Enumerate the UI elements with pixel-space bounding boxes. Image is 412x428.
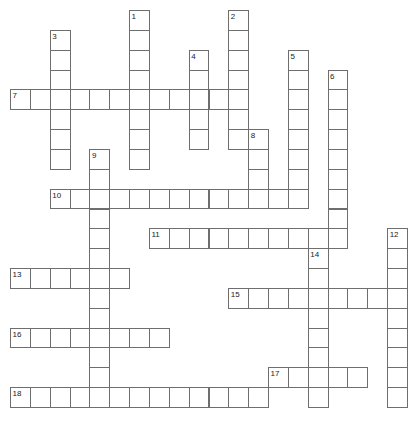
grid-cell[interactable] (30, 328, 51, 349)
grid-cell[interactable] (89, 347, 110, 368)
grid-cell[interactable] (328, 149, 349, 170)
grid-cell[interactable] (288, 70, 309, 91)
grid-cell[interactable] (30, 268, 51, 289)
grid-cell[interactable] (288, 129, 309, 150)
grid-cell[interactable] (328, 109, 349, 130)
grid-cell[interactable] (129, 387, 150, 408)
grid-cell[interactable] (89, 209, 110, 230)
grid-cell[interactable] (308, 387, 329, 408)
grid-cell[interactable] (50, 50, 71, 71)
grid-cell[interactable] (209, 228, 230, 249)
grid-cell[interactable] (129, 328, 150, 349)
grid-cell[interactable] (308, 308, 329, 329)
grid-cell[interactable] (169, 228, 190, 249)
grid-cell[interactable] (308, 248, 329, 269)
grid-cell[interactable] (228, 89, 249, 110)
grid-cell[interactable] (228, 10, 249, 31)
grid-cell[interactable] (228, 30, 249, 51)
grid-cell[interactable] (30, 387, 51, 408)
grid-cell[interactable] (248, 129, 269, 150)
grid-cell[interactable] (129, 129, 150, 150)
grid-cell[interactable] (367, 288, 388, 309)
grid-cell[interactable] (129, 89, 150, 110)
grid-cell[interactable] (89, 288, 110, 309)
grid-cell[interactable] (129, 30, 150, 51)
grid-cell[interactable] (189, 228, 210, 249)
grid-cell[interactable] (228, 129, 249, 150)
grid-cell[interactable] (189, 129, 210, 150)
grid-cell[interactable] (248, 387, 269, 408)
grid-cell[interactable] (149, 328, 170, 349)
grid-cell[interactable] (50, 109, 71, 130)
grid-cell[interactable] (50, 387, 71, 408)
grid-cell[interactable] (189, 50, 210, 71)
grid-cell[interactable] (387, 347, 408, 368)
grid-cell[interactable] (288, 189, 309, 210)
grid-cell[interactable] (109, 89, 130, 110)
grid-cell[interactable] (209, 89, 230, 110)
grid-cell[interactable] (328, 129, 349, 150)
grid-cell[interactable] (189, 109, 210, 130)
grid-cell[interactable] (50, 70, 71, 91)
grid-cell[interactable] (209, 387, 230, 408)
grid-cell[interactable] (268, 288, 289, 309)
grid-cell[interactable] (347, 367, 368, 388)
grid-cell[interactable] (70, 268, 91, 289)
grid-cell[interactable] (109, 328, 130, 349)
grid-cell[interactable] (268, 189, 289, 210)
grid-cell[interactable] (70, 189, 91, 210)
grid-cell[interactable] (328, 367, 349, 388)
grid-cell[interactable] (89, 228, 110, 249)
grid-cell[interactable] (308, 347, 329, 368)
grid-cell[interactable] (89, 169, 110, 190)
grid-cell[interactable] (89, 248, 110, 269)
grid-cell[interactable] (328, 89, 349, 110)
grid-cell[interactable] (10, 328, 31, 349)
grid-cell[interactable] (387, 387, 408, 408)
grid-cell[interactable] (248, 189, 269, 210)
grid-cell[interactable] (149, 89, 170, 110)
grid-cell[interactable] (169, 387, 190, 408)
grid-cell[interactable] (129, 10, 150, 31)
grid-cell[interactable] (328, 169, 349, 190)
grid-cell[interactable] (89, 189, 110, 210)
grid-cell[interactable] (50, 129, 71, 150)
grid-cell[interactable] (169, 89, 190, 110)
grid-cell[interactable] (89, 387, 110, 408)
grid-cell[interactable] (248, 228, 269, 249)
grid-cell[interactable] (10, 89, 31, 110)
grid-cell[interactable] (248, 149, 269, 170)
grid-cell[interactable] (268, 367, 289, 388)
grid-cell[interactable] (189, 70, 210, 91)
crossword-grid[interactable]: 123456789101112131415161718 (0, 0, 412, 428)
grid-cell[interactable] (228, 228, 249, 249)
grid-cell[interactable] (387, 228, 408, 249)
grid-cell[interactable] (328, 70, 349, 91)
grid-cell[interactable] (70, 89, 91, 110)
grid-cell[interactable] (50, 268, 71, 289)
grid-cell[interactable] (149, 387, 170, 408)
grid-cell[interactable] (308, 367, 329, 388)
grid-cell[interactable] (129, 109, 150, 130)
grid-cell[interactable] (89, 367, 110, 388)
grid-cell[interactable] (89, 149, 110, 170)
grid-cell[interactable] (387, 268, 408, 289)
grid-cell[interactable] (10, 387, 31, 408)
grid-cell[interactable] (308, 228, 329, 249)
grid-cell[interactable] (347, 288, 368, 309)
grid-cell[interactable] (228, 189, 249, 210)
grid-cell[interactable] (50, 189, 71, 210)
grid-cell[interactable] (129, 149, 150, 170)
grid-cell[interactable] (387, 308, 408, 329)
grid-cell[interactable] (70, 387, 91, 408)
grid-cell[interactable] (189, 189, 210, 210)
grid-cell[interactable] (149, 228, 170, 249)
grid-cell[interactable] (129, 50, 150, 71)
grid-cell[interactable] (129, 70, 150, 91)
grid-cell[interactable] (268, 228, 289, 249)
grid-cell[interactable] (209, 189, 230, 210)
grid-cell[interactable] (50, 89, 71, 110)
grid-cell[interactable] (387, 248, 408, 269)
grid-cell[interactable] (328, 189, 349, 210)
grid-cell[interactable] (228, 387, 249, 408)
